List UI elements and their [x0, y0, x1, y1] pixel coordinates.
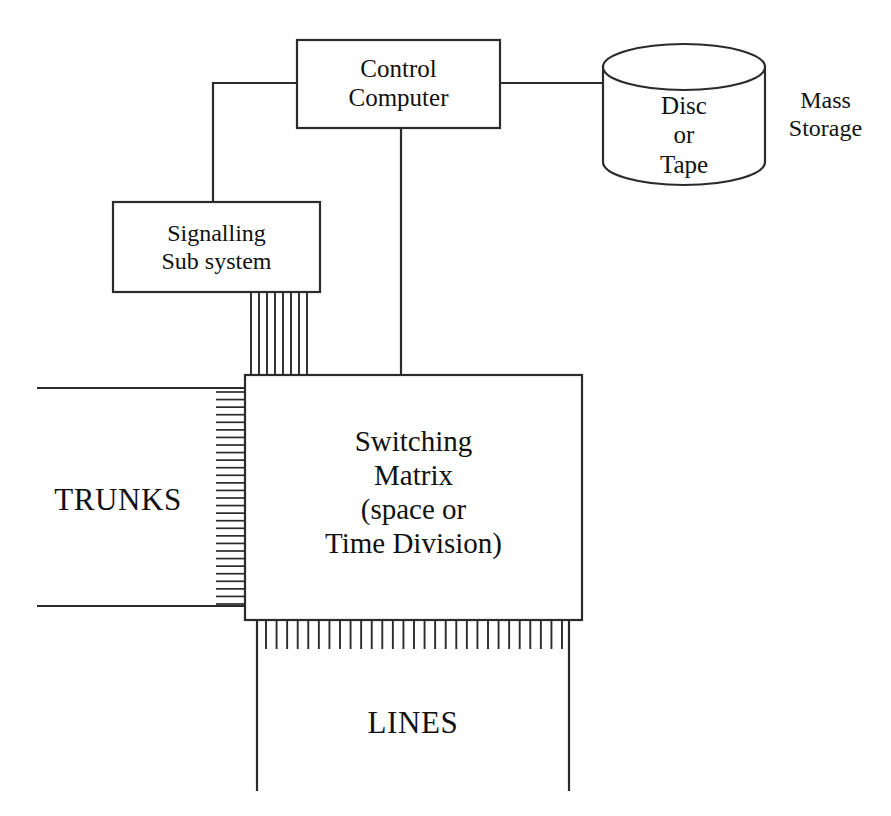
- mass-storage-cylinder-label: Disc or Tape: [603, 91, 765, 179]
- connector-control-to-signalling: [213, 83, 297, 202]
- matrix-lines-tick-bus: [266, 621, 562, 649]
- signalling-matrix-bus: [251, 292, 307, 375]
- signalling-subsystem-label: Signalling Sub system: [113, 219, 320, 275]
- diagram-canvas: Control Computer Disc or Tape Mass Stora…: [0, 0, 891, 816]
- trunks-label: TRUNKS: [30, 482, 206, 518]
- switching-matrix-label: Switching Matrix (space or Time Division…: [245, 425, 582, 561]
- control-computer-label: Control Computer: [297, 54, 500, 113]
- trunks-matrix-hatch-bus: [216, 392, 247, 604]
- lines-label: LINES: [257, 705, 569, 741]
- mass-storage-caption-label: Mass Storage: [768, 86, 883, 142]
